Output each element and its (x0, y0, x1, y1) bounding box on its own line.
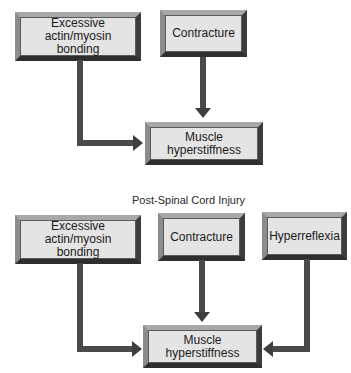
top-box-actin-myosin: Excessive actin/myosin bonding (15, 12, 141, 61)
bottom-arrow-hyperreflexia-horizontal (271, 346, 310, 352)
top-arrowhead-down (195, 108, 211, 118)
bottom-arrow-actin-vertical (77, 263, 83, 352)
bottom-arrowhead-left (263, 341, 273, 357)
bottom-arrow-contracture-vertical (199, 260, 205, 313)
top-box-muscle-hyperstiffness: Muscle hyperstiffness (145, 122, 263, 165)
top-box-contracture: Contracture (160, 10, 247, 57)
bottom-box-muscle-hyperstiffness-label: Muscle hyperstiffness (148, 330, 257, 363)
top-box-actin-myosin-label: Excessive actin/myosin bonding (20, 17, 136, 56)
top-box-contracture-label: Contracture (165, 15, 242, 52)
top-arrow-actin-vertical (77, 60, 83, 146)
bottom-box-actin-myosin: Excessive actin/myosin bonding (15, 215, 141, 264)
top-arrow-contracture-vertical (200, 57, 206, 109)
bottom-box-muscle-hyperstiffness: Muscle hyperstiffness (143, 325, 262, 368)
bottom-diagram-title: Post-Spinal Cord Injury (132, 194, 245, 206)
bottom-arrow-hyperreflexia-vertical (304, 259, 310, 352)
top-arrowhead-right (133, 135, 143, 151)
top-box-muscle-hyperstiffness-label: Muscle hyperstiffness (150, 127, 258, 160)
bottom-box-hyperreflexia: Hyperreflexia (262, 212, 347, 260)
top-arrow-actin-horizontal (77, 140, 134, 146)
bottom-box-contracture: Contracture (158, 213, 245, 261)
bottom-box-hyperreflexia-label: Hyperreflexia (267, 217, 342, 255)
bottom-arrow-actin-horizontal (77, 346, 133, 352)
bottom-box-contracture-label: Contracture (163, 218, 240, 256)
bottom-arrowhead-down (194, 312, 210, 322)
bottom-arrowhead-right (132, 341, 142, 357)
bottom-box-actin-myosin-label: Excessive actin/myosin bonding (20, 220, 136, 259)
